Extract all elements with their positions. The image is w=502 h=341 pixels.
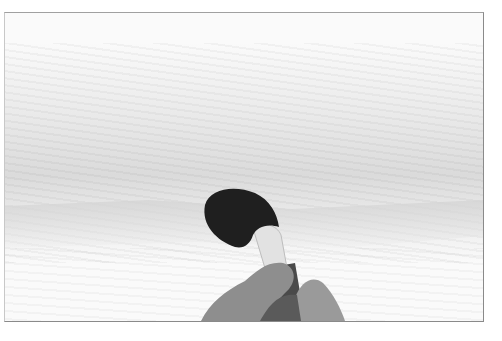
photo-frame [4, 12, 484, 322]
hand-fingers [293, 279, 345, 321]
brush-and-hand [5, 13, 483, 321]
